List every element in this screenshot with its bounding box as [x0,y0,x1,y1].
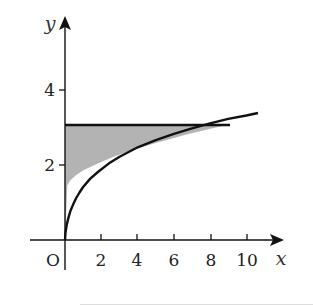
y-ticks [59,90,65,165]
x-axis-label: x [276,247,287,269]
origin-label: O [46,250,60,270]
y-tick-label-2: 2 [44,155,55,175]
x-tick-label-10: 10 [236,250,258,270]
graph-canvas: 2 4 6 8 10 2 4 O x y [0,0,313,305]
x-tick-label-4: 4 [132,250,143,270]
x-tick-label-8: 8 [206,250,217,270]
x-tick-label-2: 2 [96,250,107,270]
y-axis-label: y [44,12,56,34]
x-tick-label-6: 6 [169,250,180,270]
x-ticks [101,234,247,240]
y-tick-label-4: 4 [44,80,55,100]
shaded-region [65,125,228,240]
